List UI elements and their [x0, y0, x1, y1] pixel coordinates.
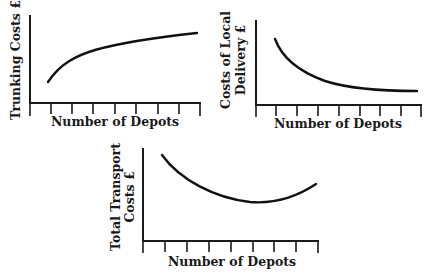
total-transport-cost-curve: [162, 155, 316, 202]
x-ticks: [143, 241, 318, 253]
depot-cost-diagrams: Number of Depots Trunking Costs £ Number…: [0, 0, 431, 278]
x-axis-label: Number of Depots: [168, 254, 296, 269]
chart-total-transport-costs: Number of Depots Total Transport Costs £: [108, 143, 319, 269]
x-axis-label: Number of Depots: [274, 116, 402, 131]
y-axis-label-line-2: Delivery £: [233, 25, 248, 95]
y-axis-label: Trunking Costs £: [8, 0, 23, 120]
y-axis-label-line-1: Costs of Local: [218, 11, 233, 109]
chart-local-delivery-costs: Number of Depots Costs of Local Delivery…: [218, 11, 422, 131]
y-axis-label-line-2: Costs £: [122, 171, 137, 222]
x-axis-label: Number of Depots: [51, 114, 179, 129]
chart-trunking-costs: Number of Depots Trunking Costs £: [8, 0, 201, 129]
trunking-cost-curve: [48, 33, 197, 82]
local-delivery-cost-curve: [275, 39, 417, 91]
y-axis-label-line-1: Total Transport: [108, 143, 123, 251]
